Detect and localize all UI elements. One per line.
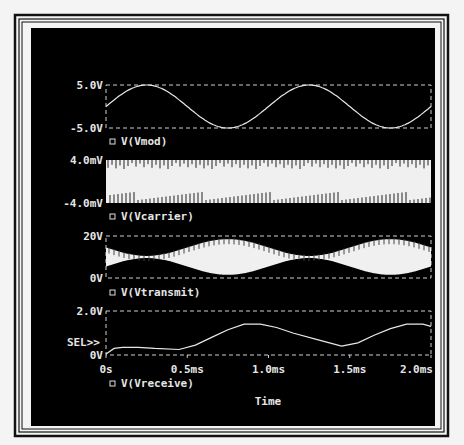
panel-vreceive[interactable]: 2.0V 0V SEL>> 0s0.5ms1.0ms1.5ms2.0ms V(V… bbox=[67, 305, 433, 408]
x-tick-label: 2.0ms bbox=[400, 363, 433, 376]
x-axis-ticks: 0s0.5ms1.0ms1.5ms2.0ms bbox=[99, 355, 433, 376]
y-tick-bottom: 0V bbox=[90, 272, 104, 285]
legend-marker-icon bbox=[110, 139, 115, 144]
x-tick-label: 1.5ms bbox=[333, 363, 366, 376]
vreceive-trace bbox=[106, 324, 431, 354]
selection-marker[interactable]: SEL>> bbox=[67, 336, 100, 349]
y-tick-bottom: -5.0V bbox=[70, 122, 103, 135]
y-tick-bottom: -4.0mV bbox=[63, 197, 103, 210]
y-tick-top: 4.0mV bbox=[70, 154, 103, 167]
y-tick-top: 5.0V bbox=[77, 79, 104, 92]
waveform-plot[interactable]: 5.0V -5.0V V(Vmod) 4.0mV -4.0mV V(Vcarri… bbox=[0, 0, 464, 445]
legend-vtransmit: V(Vtransmit) bbox=[121, 286, 200, 299]
legend-vcarrier: V(Vcarrier) bbox=[121, 210, 194, 223]
x-tick-label: 1.0ms bbox=[252, 363, 285, 376]
legend-vmod: V(Vmod) bbox=[121, 135, 167, 148]
x-axis-label: Time bbox=[255, 395, 282, 408]
y-tick-top: 2.0V bbox=[77, 305, 104, 318]
x-tick-label: 0.5ms bbox=[171, 363, 204, 376]
panel-vtransmit[interactable]: 20V 0V V(Vtransmit) bbox=[83, 230, 431, 299]
y-tick-bottom: 0V bbox=[90, 349, 104, 362]
panel-vmod[interactable]: 5.0V -5.0V V(Vmod) bbox=[70, 79, 431, 148]
legend-marker-icon bbox=[110, 290, 115, 295]
legend-marker-icon bbox=[110, 381, 115, 386]
panel-vcarrier[interactable]: 4.0mV -4.0mV V(Vcarrier) bbox=[63, 154, 431, 223]
vmod-trace bbox=[106, 85, 431, 128]
x-tick-label: 0s bbox=[99, 363, 112, 376]
vtransmit-envelope bbox=[106, 239, 431, 275]
legend-marker-icon bbox=[110, 214, 115, 219]
legend-vreceive: V(Vreceive) bbox=[121, 377, 194, 390]
y-tick-top: 20V bbox=[83, 230, 103, 243]
